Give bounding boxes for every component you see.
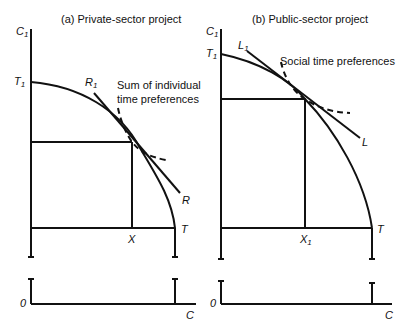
panel-a-T-label: T [181, 224, 188, 235]
panel-a-title: (a) Private-sector project [61, 13, 181, 25]
panel-b-origin-label: 0 [210, 298, 216, 309]
panel-b-title: (b) Public-sector project [252, 13, 368, 25]
panel-a-x-axis-label: C [186, 310, 194, 321]
panel-b-y-axis-label: C1 [206, 26, 218, 39]
panel-a-annotation-line2: time preferences [117, 94, 199, 105]
panel-a-R1-label: R1 [85, 77, 97, 90]
panel-b-annotation: Social time preferences [280, 56, 395, 67]
panel-a-R-label: R [182, 195, 190, 206]
panel-b-x-axis-label: C [385, 310, 393, 321]
panel-a-annotation-line1: Sum of individual [117, 80, 201, 91]
panel-b-L1-label: L1 [238, 40, 249, 53]
panel-a-indifference-curve [118, 108, 166, 160]
panel-a-T1-label: T1 [14, 76, 25, 89]
panel-b-T-label: T [377, 224, 384, 235]
panel-a-X-label: X [128, 234, 135, 245]
panel-a-y-axis-label: C1 [16, 26, 28, 39]
panel-a-origin-label: 0 [20, 298, 26, 309]
panel-b-L-label: L [362, 137, 368, 148]
panel-b-frontier [221, 54, 372, 228]
panel-b-T1-label: T1 [206, 48, 217, 61]
panel-b-X1-label: X1 [300, 234, 312, 247]
diagram-canvas [0, 0, 408, 332]
panel-b-indifference-curve [281, 62, 350, 113]
